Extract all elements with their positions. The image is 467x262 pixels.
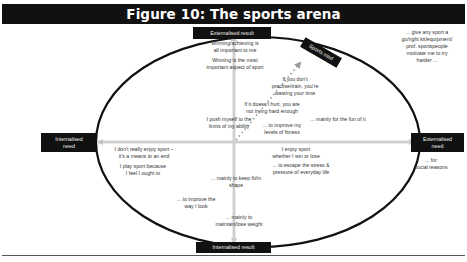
note-enjoy-win-lose: I enjoy sport whether I win or lose (263, 146, 329, 160)
note-escape-stress: ... to escape the stress & pressure of e… (262, 162, 340, 176)
note-lose-weight: ... mainly to maintain/lose weight (206, 214, 272, 228)
externalised-need-box: Externalised need (411, 133, 464, 152)
note-fun: ... mainly for the fun of it (298, 116, 378, 123)
note-ought-to: I play sport because I feel I ought to (110, 163, 176, 177)
bottom-rule (2, 255, 465, 256)
note-practise: If you don't practise/train, you're wast… (264, 76, 326, 97)
note-doesnt-hurt: If it doesn't hurt, you are not trying h… (232, 101, 312, 115)
note-dont-enjoy: I don't really enjoy sport – it's a mean… (103, 146, 185, 160)
internalised-need-box: Internalised need (41, 133, 97, 152)
note-give-any-sport: ... give any sport a go/right kit/equipm… (393, 29, 461, 64)
note-keep-fit: ... mainly to keep fit/in shape (200, 175, 272, 189)
note-social-reasons: ... for social reasons (406, 157, 456, 171)
note-winning-all-important: Winning/achieving is all important to me (200, 40, 270, 54)
note-push-limits: I push myself to the limits of my abilit… (200, 116, 258, 130)
note-improve-fitness: ... to improve my levels of fitness (258, 122, 306, 136)
note-improve-look: ... to improve the way I look (168, 196, 224, 210)
note-winning-most-important: Winning is the most important aspect of … (197, 57, 273, 71)
internalised-result-box: Internalised result (196, 242, 271, 253)
externalised-result-box: Externalised result (193, 27, 271, 39)
